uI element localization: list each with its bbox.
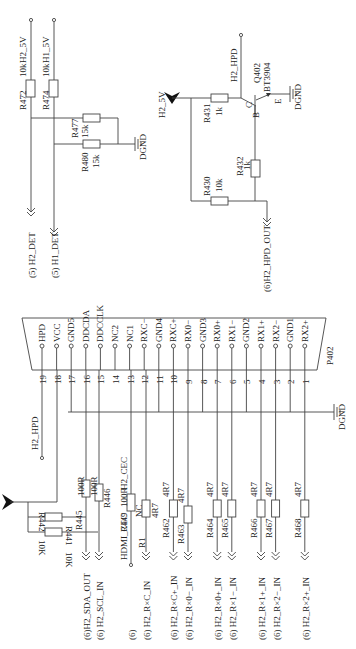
pin-number: 19: [38, 375, 48, 385]
pin-number: 15: [96, 375, 106, 385]
value-label: 4R7: [220, 481, 230, 497]
detect-section: H2_5V H1_5V R472 10k R474 10k R477 15k R…: [18, 18, 148, 278]
ref-label: Q402: [252, 63, 262, 83]
pin-name: RX2−: [271, 320, 281, 342]
resistor-r463: R4634R7: [176, 370, 192, 552]
pin-name: GND5: [66, 318, 76, 342]
net-label: H2_5V: [157, 91, 167, 118]
pin-number: 6: [228, 379, 238, 384]
pin-name: RX0+: [212, 320, 222, 342]
ref-label: R1: [137, 537, 147, 548]
ground-label: DGND: [337, 404, 347, 430]
ref-label: R463: [176, 524, 186, 544]
value-label: 15k: [80, 124, 90, 138]
net-label: (6) H2_R×C_IN: [142, 580, 152, 640]
value-label: 10k: [214, 178, 224, 192]
ref-label: R446: [102, 488, 112, 508]
ref-label: R474: [41, 90, 51, 110]
pin-number: 2: [286, 380, 296, 385]
connector-pin-9: 9RX0−: [183, 320, 194, 384]
connector-pin-12: 12RXC−: [139, 318, 150, 384]
net-arrow-icon: [184, 552, 192, 560]
ref-label: R468: [293, 518, 303, 538]
net-arrow-icon: [213, 552, 221, 560]
value-label: 1k: [242, 161, 252, 171]
connector-pin-1: 1RX2+: [300, 320, 311, 384]
connector-pin-19: 19HPD: [37, 323, 48, 384]
pin-number: 12: [140, 375, 150, 384]
ground-label: DGND: [138, 134, 148, 160]
value-label: 100R: [76, 476, 86, 496]
ref-label: R441: [64, 526, 74, 546]
ref-label: R464: [205, 518, 215, 538]
pin-number: 17: [67, 375, 77, 385]
pin-number: 18: [53, 375, 63, 385]
connector-pin-15: 15DDCCLK: [95, 304, 106, 384]
net-arrow-icon: [301, 552, 309, 560]
resistor-r477: [83, 114, 100, 122]
value-label: 15k: [91, 154, 101, 168]
ref-label: R465: [220, 518, 230, 538]
connector-pin-10: 10RXC+: [168, 318, 179, 384]
resistor-r467: R4674R7: [264, 370, 280, 552]
ref-label: R467: [264, 518, 274, 538]
terminal-icon: [239, 33, 242, 36]
connector-pin-8: 8GND3: [198, 318, 209, 412]
pin-name: RXC+: [168, 318, 178, 342]
ref-label: P402: [325, 346, 335, 365]
net-label: (6) H2_R×2−_IN: [272, 577, 282, 640]
net-arrow-icon: [257, 552, 265, 560]
pin-name: RX0−: [183, 320, 193, 342]
resistor-r1: [142, 500, 150, 517]
value-label: 4R7: [150, 502, 160, 518]
net-label: (6) H2_R×1−_IN: [228, 577, 238, 640]
ref-label: R442: [37, 512, 47, 532]
net-label: H2_HPD: [30, 416, 40, 450]
ref-label: R445: [74, 510, 84, 530]
pin-name: RXC−: [139, 318, 149, 342]
ref-label: R431: [202, 103, 212, 123]
resistor-r432: [251, 160, 260, 177]
pin-name: RX2+: [300, 320, 310, 342]
ref-label: R466: [249, 518, 259, 538]
value-label: 100R: [119, 487, 129, 507]
ref-label: R472: [18, 90, 28, 110]
bottom-section: H2_HPD R442 10K R441 10K 100R R445 100R …: [2, 370, 311, 640]
pin-number: 7: [213, 379, 223, 384]
net-label: H2_CEC: [119, 457, 129, 490]
net-label: (6) H2_R×2+_IN: [301, 577, 311, 640]
ref-label: R462: [161, 518, 171, 538]
net-arrow-icon: [228, 552, 236, 560]
connector-pin-5: 5GND2: [241, 318, 252, 412]
resistor-r431: [211, 94, 228, 102]
value-label: 10K: [64, 552, 74, 568]
net-label: (6) H2_SCL_IN: [95, 581, 105, 640]
net-arrow-icon: [95, 552, 103, 560]
connector-pin-4: 4RX1+: [256, 320, 267, 384]
net-arrow-icon: [82, 552, 90, 560]
net-arrow-icon: [272, 552, 280, 560]
net-label: (6) H2_R×C+_IN: [169, 575, 179, 640]
ground-label: DGND: [293, 84, 303, 110]
connector-pin-3: 3RX2−: [271, 320, 282, 384]
pin-number: 16: [82, 375, 92, 385]
connector-pin-13: 13NC1: [125, 325, 136, 384]
value-label: 10K: [37, 540, 47, 556]
net-label: (6) H2_R×0+_IN: [213, 577, 223, 640]
net-arrow-icon: [169, 552, 177, 560]
pin-name: DDCCLK: [95, 304, 105, 342]
connector-pin-7: 7RX0+: [212, 320, 223, 384]
ref-label: R430: [202, 176, 212, 196]
net-label: (6) H2_R×0−_IN: [184, 577, 194, 640]
net-label: H2_HPD: [229, 48, 239, 82]
pin-label: E: [273, 98, 283, 104]
connector-pin-2: 2GND1: [285, 318, 296, 412]
pin-number: 5: [242, 379, 252, 384]
pin-number: 11: [155, 375, 165, 384]
pin-name: GND2: [241, 318, 251, 342]
connector-p402: 19HPD18VCC17GND516DDCDA15DDCCLK14NC213NC…: [22, 304, 335, 412]
value-label: 4R7: [161, 481, 171, 497]
resistor-r430: [211, 197, 228, 205]
terminal-icon: [29, 18, 32, 21]
value-label: 10k: [41, 63, 51, 77]
